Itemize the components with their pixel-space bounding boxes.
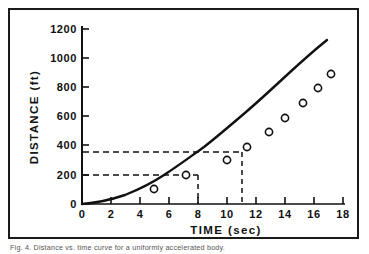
y-tick-label-1200: 1200 [50,23,77,35]
x-tick-label-8: 8 [195,208,202,220]
x-axis-ticks [82,197,343,204]
data-point-marker [223,156,230,163]
y-tick-label-400: 400 [57,139,77,151]
figure-caption: Fig. 4. Distance vs. time curve for a un… [10,243,360,254]
x-tick-label-10: 10 [220,208,233,220]
data-point-marker [281,114,288,121]
data-point-marker [314,84,321,91]
data-point-marker [182,171,189,178]
y-axis-ticks [82,29,89,204]
x-tick-label-4: 4 [137,208,144,220]
data-point-marker [299,99,306,106]
x-tick-label-2: 2 [108,208,115,220]
data-point-marker [265,128,272,135]
x-tick-label-6: 6 [166,208,173,220]
x-axis-title: TIME (sec) [190,224,262,236]
y-tick-label-200: 200 [57,169,77,181]
distance-curve [82,40,327,204]
x-tick-label-0: 0 [79,208,86,220]
x-tick-label-18: 18 [336,208,349,220]
data-point-marker [327,70,334,77]
y-tick-label-1000: 1000 [50,52,77,64]
distance-time-chart: 0 200 400 600 800 1000 1200 0 2 4 6 8 10… [0,0,369,254]
y-tick-label-800: 800 [57,81,77,93]
data-point-marker [150,185,157,192]
data-point-marker [243,143,250,150]
x-tick-label-16: 16 [307,208,320,220]
figure-container: 0 200 400 600 800 1000 1200 0 2 4 6 8 10… [0,0,369,254]
y-tick-label-600: 600 [57,110,77,122]
y-tick-label-0: 0 [70,198,77,210]
guide-lines [83,152,242,203]
x-tick-label-12: 12 [249,208,262,220]
x-tick-label-14: 14 [278,208,292,220]
y-axis-title: DISTANCE (ft) [28,70,40,165]
